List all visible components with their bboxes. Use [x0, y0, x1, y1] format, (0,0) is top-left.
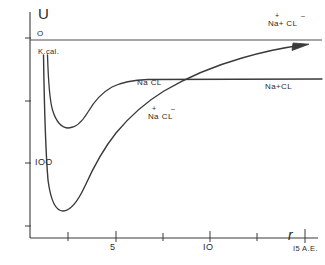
- ionic-curve-arrowhead: [292, 43, 309, 51]
- ion-pair-charge-row: + –: [268, 12, 305, 19]
- ionic-nacl-curve: [44, 45, 304, 211]
- ion-pair-base-row: Na+ CL: [268, 19, 305, 28]
- y-tick-label-hundred: IOO: [35, 158, 53, 167]
- x-axis-title: r: [288, 228, 293, 242]
- x-axis-ticks: [68, 229, 305, 243]
- potential-energy-diagram: U r O K.cal. IOO 5 IO I5 A.E. + – Na+ CL…: [0, 0, 325, 265]
- ion-pair-asymptote-label: + – Na+ CL: [268, 12, 305, 28]
- ionic-curve-label: + – NaCL: [148, 105, 175, 121]
- x-tick-label-5: 5: [110, 243, 115, 252]
- y-axis-title: U: [38, 6, 49, 21]
- covalent-nacl-curve: [48, 55, 323, 128]
- covalent-curve-label: Na CL: [137, 79, 162, 87]
- ionic-cl-minus-charge-icon: –: [171, 105, 175, 112]
- ionic-na-plus-charge-icon: +: [152, 105, 156, 112]
- y-axis-units-label: K.cal.: [38, 48, 59, 56]
- chart-canvas: [0, 0, 325, 265]
- x-tick-label-15-units: I5 A.E.: [293, 245, 318, 253]
- ion-pair-cl-label: + CL: [279, 19, 297, 28]
- ionic-base-row: NaCL: [148, 112, 175, 121]
- ion-pair-na-label: Na: [268, 19, 279, 28]
- ionic-na-label: Na: [148, 112, 159, 121]
- ionic-charge-row: + –: [148, 105, 175, 112]
- cl-minus-charge-icon: –: [301, 12, 305, 19]
- y-tick-label-zero: O: [37, 30, 44, 38]
- neutral-asymptote-label: Na+CL: [265, 83, 292, 91]
- x-tick-label-10: IO: [203, 243, 213, 252]
- na-plus-charge-icon: +: [275, 12, 279, 19]
- ionic-cl-label: CL: [162, 112, 173, 121]
